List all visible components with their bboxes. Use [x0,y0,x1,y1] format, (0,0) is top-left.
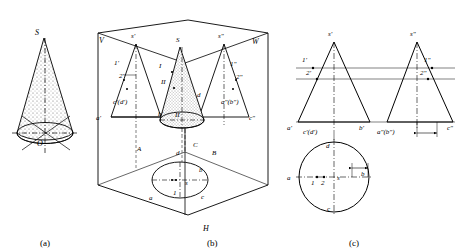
label-c-d-top: d [326,142,330,150]
label-b-A: A [136,145,142,153]
orthographic-views: s' 1' 2' a' c'(d') b' s" 1" 2" a"(b") c"… [287,30,455,215]
label-c-cd-prime: c'(d') [303,128,318,136]
label-b-2-dblprime: 2" [236,73,243,81]
label-b-s-prime: s' [131,32,136,40]
label-c-a-top: a [287,174,291,182]
pictorial-cone: S O [12,28,78,155]
label-b-B: B [212,149,217,157]
label-b-I: I [158,62,162,70]
caption-b: (b) [207,238,218,248]
label-b-a-top: a [149,194,153,202]
label-b-c-dblprime: c" [249,114,255,122]
label-c-2-dblprime: 2" [420,69,427,77]
label-b-c-top: c [201,193,205,201]
label-b-II: II [160,78,166,86]
label-W-plane: W [252,37,260,46]
label-O-pictorial: O [37,139,43,148]
label-b-ab-dblprime: a"(b") [221,98,239,106]
label-c-ab-dblprime: a"(b") [377,128,395,136]
label-c-b-prime: b' [359,124,365,132]
engineering-drawing-figure: S O [0,0,473,250]
label-b-1-prime: 1' [114,59,120,67]
label-c-s-dblprime: s" [410,30,416,38]
label-c-b-top: b [361,170,365,178]
label-b-s-top: s [185,179,188,187]
label-b-b-prime: b' [158,110,164,118]
label-b-II-2: II [174,111,180,119]
label-b-b-top: b [199,166,203,174]
label-S-pictorial: S [35,28,39,37]
label-c-s-prime: s' [328,30,333,38]
label-c-1-top: 1 [311,179,315,187]
caption-c: (c) [349,238,359,248]
label-H-plane: H [202,224,210,233]
label-c-2-prime: 2' [306,69,312,77]
label-b-d: d [197,91,201,99]
label-b-s-dblprime: s" [218,32,224,40]
label-b-d-top: d [176,149,180,157]
caption-a: (a) [40,238,50,248]
label-c-s-top: s [337,174,340,182]
label-b-C: C [193,141,198,149]
label-b-1-dblprime: 1" [230,60,237,68]
label-V-plane: V [99,36,105,45]
label-c-1-prime: 1' [302,56,308,64]
label-c-a-prime: a' [287,124,293,132]
label-b-1-top: 1 [173,189,177,197]
label-c-1-dblprime: 1" [424,56,431,64]
label-c-2-top: 2 [321,179,325,187]
label-c-c-dblprime: c" [447,124,453,132]
label-b-S: S [176,36,180,44]
label-b-a-prime: a' [96,114,102,122]
projection-box: V W H s' S s" 1' 2' I 1" 2" II c'(d') d … [96,20,268,233]
label-b-cd-prime: c'(d') [113,98,128,106]
label-b-2-prime: 2' [119,72,125,80]
